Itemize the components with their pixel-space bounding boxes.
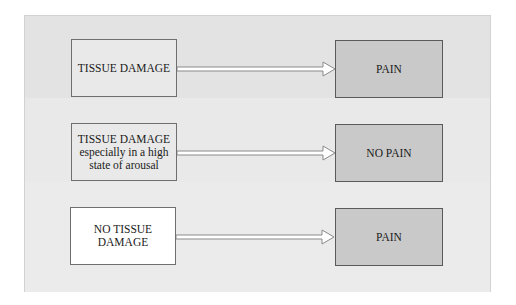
effect-label: PAIN xyxy=(376,63,402,76)
arrow-right-icon xyxy=(177,144,337,162)
arrow-right-icon xyxy=(177,60,337,78)
effect-label: PAIN xyxy=(376,231,402,244)
cause-label-line-1: TISSUE DAMAGE xyxy=(78,133,170,146)
effect-box-no-pain: NO PAIN xyxy=(335,124,443,182)
cause-label-line-2: DAMAGE xyxy=(94,236,152,249)
effect-label: NO PAIN xyxy=(366,147,411,160)
effect-box-pain: PAIN xyxy=(335,208,443,266)
cause-label-line-3: state of arousal xyxy=(78,159,170,172)
arrow-right-icon xyxy=(176,228,336,246)
cause-box-tissue-damage-arousal: TISSUE DAMAGE especially in a high state… xyxy=(71,123,177,181)
cause-label: TISSUE DAMAGE xyxy=(78,62,170,74)
effect-box-pain: PAIN xyxy=(335,40,443,98)
cause-box-no-tissue-damage: NO TISSUE DAMAGE xyxy=(70,207,176,265)
cause-box-tissue-damage: TISSUE DAMAGE xyxy=(71,39,177,97)
cause-label-line-2: especially in a high xyxy=(78,146,170,159)
cause-label-line-1: NO TISSUE xyxy=(94,223,152,236)
